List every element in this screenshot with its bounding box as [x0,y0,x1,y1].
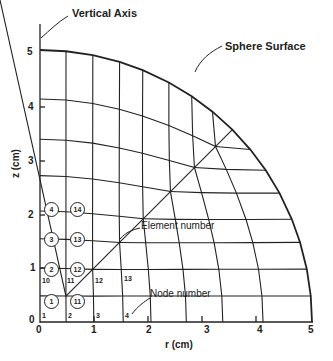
element-label-11: 11 [70,294,85,309]
y-axis-title: z (cm) [10,149,21,178]
mesh-line [212,112,215,147]
mesh-line [169,82,171,191]
y-ticks [40,107,45,268]
node-label-1: 1 [42,312,46,319]
y-tick-1: 1 [30,262,36,273]
x-ticks [94,316,256,322]
node-label-3: 3 [96,312,100,319]
element-number-leader [120,228,140,239]
mesh-line [142,70,143,219]
mesh-line [194,168,265,171]
node-label-13: 13 [124,275,132,282]
element-label-2: 2 [44,262,59,277]
vertical-axis-leader [41,16,68,38]
x-axis-title: r (cm) [165,339,193,350]
node-number-leader [132,298,150,314]
y-tick-5: 5 [27,46,33,57]
mesh-line [215,147,250,150]
x-tick-5: 5 [308,324,314,335]
mesh-line [0,0,232,296]
vertical-axis-label: Vertical Axis [72,7,137,19]
mesh-line [192,96,195,167]
x-tick-1: 1 [91,324,97,335]
node-label-11: 11 [67,277,74,284]
x-tick-3: 3 [204,324,210,335]
element-label-1: 1 [44,294,59,309]
node-label-2: 2 [68,312,72,319]
element-label-13: 13 [70,232,85,247]
node-label-12: 12 [95,277,103,284]
element-label-14: 14 [70,202,85,217]
y-tick-4: 4 [28,101,34,112]
axes [40,16,313,323]
element-label-4: 4 [44,202,59,217]
x-tick-0: 0 [36,324,42,335]
y-tick-0: 0 [29,314,35,325]
x-tick-4: 4 [257,324,263,335]
element-label-12: 12 [70,262,85,277]
element-label-3: 3 [44,232,59,247]
node-label-10: 10 [42,277,50,284]
y-tick-3: 3 [28,155,34,166]
mesh-line [170,192,279,194]
node-label-4: 4 [125,312,129,319]
sphere-surface-leader [195,46,222,72]
sphere-surface-label: Sphere Surface [225,40,306,52]
y-tick-2: 2 [28,209,34,220]
element-number-label: Element number [141,220,214,231]
node-number-label: Node number [150,288,211,299]
x-tick-2: 2 [146,324,152,335]
